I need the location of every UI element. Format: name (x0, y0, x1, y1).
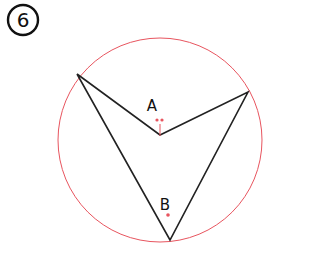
label-point-a: A (147, 97, 158, 115)
label-point-b: B (160, 196, 170, 214)
problem-number: 6 (17, 8, 30, 32)
problem-number-badge: 6 (8, 5, 38, 35)
quadrilateral-outline (77, 74, 248, 240)
angle-mark-b (166, 213, 170, 217)
geometry-diagram: 6 A B (0, 0, 315, 255)
